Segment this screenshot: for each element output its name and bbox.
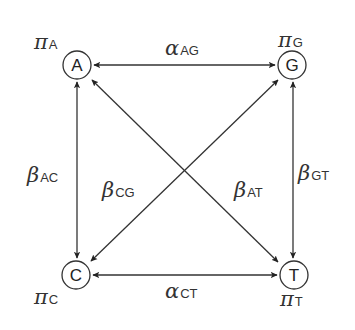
node-T: T	[280, 261, 308, 289]
substitution-model-diagram: A G C T πA πG πC πT αAG αCT βAC βGT βCG …	[0, 0, 355, 330]
node-G: G	[278, 51, 306, 79]
freq-label-T: πT	[279, 287, 303, 311]
freq-label-A: πA	[33, 30, 58, 54]
edges	[77, 65, 293, 275]
rate-label-GT: βGT	[297, 161, 329, 185]
rate-label-AC: βAC	[26, 163, 58, 187]
rate-label-CG: βCG	[101, 178, 135, 202]
freq-label-G: πG	[277, 28, 303, 52]
rate-label-CT: αCT	[165, 279, 198, 303]
node-label: A	[71, 56, 83, 75]
rate-label-AG: αAG	[165, 36, 199, 60]
node-C: C	[62, 261, 90, 289]
node-label: C	[70, 266, 82, 285]
freq-label-C: πC	[33, 285, 58, 309]
node-label: T	[289, 266, 299, 285]
rate-label-AT: βAT	[233, 178, 263, 202]
node-A: A	[63, 51, 91, 79]
node-label: G	[285, 56, 298, 75]
